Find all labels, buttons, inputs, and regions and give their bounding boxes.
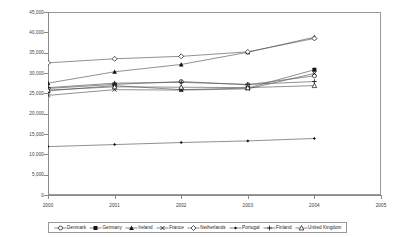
legend-label: Ireland	[138, 225, 153, 230]
legend-marker-triangle-open-icon	[295, 224, 308, 232]
x-axis-tick-label: 2001	[100, 203, 130, 208]
data-point-diamond-small	[234, 226, 237, 229]
data-point-diamond-open	[112, 56, 117, 61]
legend-marker-square-filled-icon	[89, 224, 102, 232]
data-point-circle-open	[58, 226, 62, 230]
x-axis-tick	[48, 195, 49, 199]
data-point-diamond-open	[48, 60, 51, 65]
y-axis-tick	[44, 12, 48, 13]
x-axis-tick	[248, 195, 249, 199]
y-axis-labels: 05,00010,00015,00020,00025,00030,00035,0…	[0, 0, 44, 237]
legend-label: Finland	[276, 225, 292, 230]
series-ireland	[48, 35, 317, 85]
line-chart: 05,00010,00015,00020,00025,00030,00035,0…	[0, 0, 396, 237]
data-point-square-filled	[94, 226, 98, 230]
y-axis-tick-label: 25,000	[4, 91, 44, 96]
x-axis-tick	[381, 195, 382, 199]
y-axis-tick-label: 45,000	[4, 10, 44, 15]
x-axis-tick	[181, 195, 182, 199]
data-point-diamond-open	[179, 54, 184, 59]
legend-label: Netherlands	[200, 225, 226, 230]
y-axis-tick	[44, 114, 48, 115]
legend-marker-plus-icon	[263, 224, 276, 232]
legend-label: United Kingdom	[308, 225, 342, 230]
legend-item-ireland[interactable]: Ireland	[125, 224, 153, 232]
y-axis-tick	[44, 93, 48, 94]
legend-item-netherlands[interactable]: Netherlands	[187, 224, 226, 232]
x-axis-tick	[115, 195, 116, 199]
y-axis-tick-label: 15,000	[4, 132, 44, 137]
y-axis-tick	[44, 175, 48, 176]
data-point-plus	[267, 225, 272, 230]
legend-marker-triangle-icon	[125, 224, 138, 232]
data-point-diamond-open	[191, 225, 196, 230]
data-point-diamond-small	[246, 139, 249, 142]
legend-label: Denmark	[67, 225, 87, 230]
legend-marker-diamond-open-icon	[187, 224, 200, 232]
data-point-diamond-small	[313, 137, 316, 140]
x-axis-tick-label: 2002	[166, 203, 196, 208]
series-netherlands	[48, 36, 317, 65]
chart-legend: DenmarkGermanyIrelandFranceNetherlandsPo…	[48, 222, 347, 233]
y-axis-tick	[44, 73, 48, 74]
y-axis-tick	[44, 154, 48, 155]
x-axis-tick-label: 2004	[299, 203, 329, 208]
y-axis-tick-label: 30,000	[4, 71, 44, 76]
legend-item-portugal[interactable]: Portugal	[229, 224, 260, 232]
legend-item-germany[interactable]: Germany	[89, 224, 122, 232]
legend-marker-cross-icon	[156, 224, 169, 232]
legend-item-denmark[interactable]: Denmark	[54, 224, 87, 232]
legend-label: France	[169, 225, 184, 230]
y-axis-tick-label: 20,000	[4, 111, 44, 116]
x-axis-tick-label: 2003	[233, 203, 263, 208]
y-axis-tick-label: 40,000	[4, 30, 44, 35]
legend-item-finland[interactable]: Finland	[263, 224, 292, 232]
y-axis-tick-label: 5,000	[4, 172, 44, 177]
data-point-diamond-small	[48, 145, 50, 148]
y-axis-tick	[44, 32, 48, 33]
legend-label: Portugal	[242, 225, 260, 230]
x-axis-tick-label: 2000	[33, 203, 63, 208]
x-axis-tick	[314, 195, 315, 199]
legend-item-france[interactable]: France	[156, 224, 184, 232]
data-point-diamond-open	[312, 36, 317, 41]
y-axis-tick	[44, 134, 48, 135]
y-axis-tick-label: 10,000	[4, 152, 44, 157]
x-axis-line	[48, 195, 381, 196]
y-axis-tick-label: 35,000	[4, 50, 44, 55]
y-axis-tick-label: 0	[4, 193, 44, 198]
data-point-diamond-small	[113, 143, 116, 146]
x-axis-tick-label: 2005	[366, 203, 396, 208]
data-series-layer	[48, 12, 381, 195]
y-axis-tick	[44, 53, 48, 54]
legend-label: Germany	[102, 225, 122, 230]
data-point-diamond-small	[180, 141, 183, 144]
series-france	[48, 71, 316, 97]
data-point-square-filled	[312, 68, 316, 72]
legend-item-united-kingdom[interactable]: United Kingdom	[295, 224, 342, 232]
legend-marker-diamond-small-icon	[229, 224, 242, 232]
series-portugal	[48, 137, 316, 148]
legend-marker-circle-open-icon	[54, 224, 67, 232]
